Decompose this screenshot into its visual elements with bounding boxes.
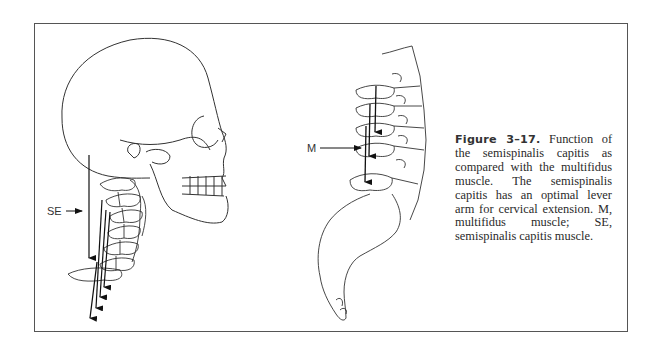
m-label: M bbox=[307, 142, 316, 154]
cervical-spine-illustration bbox=[68, 178, 146, 281]
se-force-vectors bbox=[89, 155, 110, 318]
se-label: SE bbox=[47, 205, 62, 217]
caption-text: Function of the semispinalis capitis as … bbox=[455, 132, 612, 243]
lumbar-spine-illustration bbox=[318, 46, 426, 320]
skull-illustration bbox=[62, 38, 228, 223]
figure-number: Figure 3–17. bbox=[455, 133, 541, 146]
figure-caption: Figure 3–17. Function of the semispinali… bbox=[455, 133, 612, 244]
m-force-vectors bbox=[365, 86, 376, 182]
